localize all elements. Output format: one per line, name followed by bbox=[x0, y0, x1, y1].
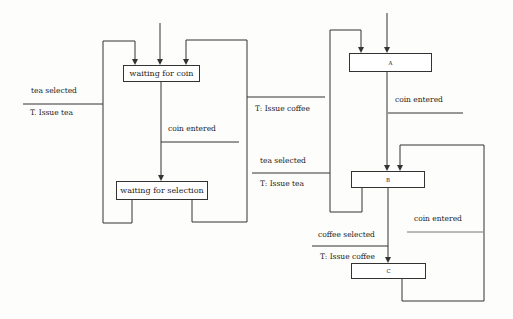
label-tea-selected: tea selected bbox=[31, 87, 77, 95]
state-label: waiting for coin bbox=[130, 69, 194, 78]
connector-lines bbox=[0, 0, 513, 319]
label-issue-tea: T. Issue tea bbox=[30, 109, 73, 117]
state-C: C bbox=[351, 263, 426, 279]
state-label: C bbox=[386, 268, 390, 274]
state-label: A bbox=[389, 60, 393, 66]
state-waiting-for-coin: waiting for coin bbox=[123, 65, 200, 82]
state-waiting-for-selection: waiting for selection bbox=[116, 181, 208, 200]
state-label: B bbox=[386, 177, 390, 183]
label-tea-selected-right: tea selected bbox=[260, 157, 306, 165]
state-label: waiting for selection bbox=[120, 186, 203, 195]
label-issue-tea-right: T: Issue tea bbox=[260, 180, 304, 188]
diagram-canvas: waiting for coin waiting for selection t… bbox=[0, 0, 513, 319]
state-A: A bbox=[349, 53, 432, 72]
label-coffee-selected: coffee selected bbox=[318, 231, 375, 239]
label-issue-coffee: T: Issue coffee bbox=[255, 105, 310, 113]
state-B: B bbox=[351, 171, 425, 188]
label-coin-entered: coin entered bbox=[168, 125, 216, 133]
label-coin-entered-cb: coin entered bbox=[414, 215, 462, 223]
label-issue-coffee-right: T: Issue coffee bbox=[320, 253, 375, 261]
label-coin-entered-ab: coin entered bbox=[395, 96, 443, 104]
